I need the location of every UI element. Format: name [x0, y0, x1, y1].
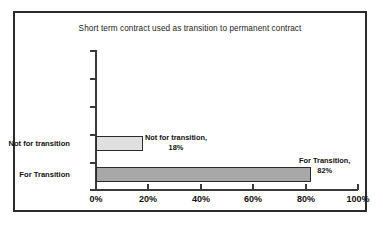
x-axis-tick — [357, 184, 359, 190]
y-axis-tick — [90, 50, 95, 52]
data-label-line2: 18% — [145, 143, 207, 153]
x-axis-label-0: 0% — [89, 194, 102, 204]
bar-not-for-transition[interactable] — [96, 136, 143, 151]
x-axis-label-100: 100% — [346, 194, 369, 204]
bar-for-transition[interactable] — [96, 167, 311, 182]
x-axis-label-60: 60% — [244, 194, 262, 204]
chart-figure: Short term contract used as transition t… — [13, 11, 367, 212]
x-axis-tick — [147, 184, 149, 190]
y-axis-tick — [90, 106, 95, 108]
y-axis-tick — [90, 78, 95, 80]
x-axis-tick — [200, 184, 202, 190]
x-axis-tick — [252, 184, 254, 190]
x-axis-label-80: 80% — [297, 194, 315, 204]
x-axis-label-20: 20% — [139, 194, 157, 204]
data-label-not-for-transition: Not for transition, 18% — [145, 133, 207, 153]
x-axis-tick — [95, 184, 97, 190]
x-axis-tick — [305, 184, 307, 190]
data-label-for-transition: For Transition, 82% — [299, 156, 350, 176]
x-axis-label-40: 40% — [192, 194, 210, 204]
y-axis-tick — [90, 162, 95, 164]
category-label-for-transition: For Transition — [19, 170, 70, 179]
plot-area: Not for transition Not for transition, 1… — [15, 13, 365, 210]
data-label-line2: 82% — [299, 166, 350, 176]
category-label-not-for-transition: Not for transition — [8, 139, 70, 148]
data-label-line1: For Transition, — [299, 156, 350, 166]
y-axis-tick — [90, 134, 95, 136]
x-axis-line — [95, 189, 358, 191]
data-label-line1: Not for transition, — [145, 133, 207, 143]
